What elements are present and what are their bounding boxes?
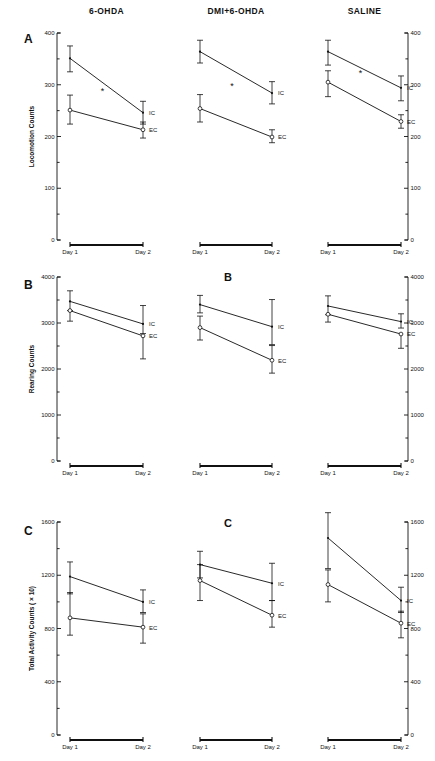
y-tick-label-right: 0: [411, 237, 415, 243]
data-point-IC: [69, 575, 71, 577]
y-tick-label: 0: [51, 458, 55, 464]
data-point-IC: [400, 599, 402, 601]
series-label-IC: IC: [149, 599, 156, 605]
x-tick-label-day2: Day 2: [393, 744, 409, 750]
series-label-EC: EC: [407, 621, 416, 627]
series-line-IC: [200, 52, 272, 93]
x-tick-label-day1: Day 1: [320, 470, 336, 476]
y-tick-label: 100: [44, 185, 55, 191]
data-point-EC: [68, 108, 72, 112]
series-line-IC: [328, 52, 401, 88]
series-label-EC: EC: [278, 134, 287, 140]
x-tick-label-day2: Day 2: [393, 249, 409, 255]
data-point-IC: [271, 92, 273, 94]
series-label-EC: EC: [149, 625, 158, 631]
x-tick-label-day1: Day 1: [62, 249, 78, 255]
series-line-EC: [70, 618, 143, 627]
y-tick-label-right: 1600: [411, 519, 425, 525]
x-tick-label-day1: Day 1: [320, 744, 336, 750]
stray-label-b: B: [224, 271, 232, 283]
x-tick-label-day1: Day 1: [62, 470, 78, 476]
data-point-EC: [399, 332, 403, 336]
series-line-EC: [328, 314, 401, 334]
data-point-EC: [270, 135, 274, 139]
series-line-IC: [70, 58, 143, 112]
y-tick-label: 400: [44, 30, 55, 36]
y-axis-title-row-2: Rearing Counts: [28, 344, 36, 393]
column-title-1: 6-OHDA: [89, 6, 124, 16]
series-line-IC: [200, 565, 272, 584]
x-tick-label-day1: Day 1: [62, 744, 78, 750]
x-tick-label-day2: Day 2: [264, 470, 280, 476]
x-tick-label-day1: Day 1: [320, 249, 336, 255]
series-line-IC: [70, 577, 143, 602]
y-tick-label-right: 1200: [411, 572, 425, 578]
data-point-EC: [141, 334, 145, 338]
x-tick-label-day2: Day 2: [135, 470, 151, 476]
series-label-IC: IC: [278, 324, 285, 330]
data-point-IC: [142, 323, 144, 325]
series-line-EC: [200, 328, 272, 361]
column-title-2: DMI+6-OHDA: [207, 6, 264, 16]
data-point-EC: [141, 625, 145, 629]
y-tick-label: 1200: [41, 572, 55, 578]
series-label-IC: IC: [407, 319, 414, 325]
series-label-IC: IC: [278, 90, 285, 96]
series-line-EC: [200, 581, 272, 616]
series-label-EC: EC: [278, 358, 287, 364]
series-label-IC: IC: [278, 581, 285, 587]
y-tick-label-right: 800: [411, 626, 422, 632]
x-tick-label-day2: Day 2: [135, 744, 151, 750]
y-tick-label-right: 200: [411, 134, 422, 140]
x-tick-label-day1: Day 1: [192, 470, 208, 476]
y-tick-label-right: 1000: [411, 412, 425, 418]
panel-letter-A: A: [24, 32, 33, 46]
data-point-EC: [68, 616, 72, 620]
data-point-IC: [142, 601, 144, 603]
series-label-IC: IC: [149, 110, 156, 116]
y-tick-label-right: 0: [411, 458, 415, 464]
data-point-IC: [327, 305, 329, 307]
y-tick-label: 0: [51, 237, 55, 243]
y-tick-label: 400: [44, 679, 55, 685]
panel-letter-C: C: [24, 524, 33, 538]
data-point-IC: [400, 321, 402, 323]
series-label-IC: IC: [149, 321, 156, 327]
y-axis-title-row-1: Locomotion Counts: [28, 105, 35, 167]
data-point-EC: [198, 107, 202, 111]
series-label-EC: EC: [407, 331, 416, 337]
data-point-EC: [399, 120, 403, 124]
y-tick-label: 1000: [41, 412, 55, 418]
x-tick-label-day1: Day 1: [192, 249, 208, 255]
series-line-EC: [200, 109, 272, 137]
data-point-EC: [270, 358, 274, 362]
y-tick-label: 300: [44, 82, 55, 88]
panel-letter-B: B: [24, 278, 33, 292]
x-tick-label-day2: Day 2: [264, 744, 280, 750]
data-point-IC: [69, 57, 71, 59]
y-tick-label-right: 4000: [411, 274, 425, 280]
y-tick-label-right: 0: [411, 732, 415, 738]
series-line-IC: [328, 306, 401, 322]
y-tick-label: 0: [51, 732, 55, 738]
significance-asterisk: *: [359, 68, 363, 78]
series-label-EC: EC: [149, 333, 158, 339]
significance-asterisk: *: [230, 81, 234, 91]
stray-label-c: C: [224, 517, 232, 529]
data-point-IC: [271, 326, 273, 328]
figure-canvas: 6-OHDADMI+6-OHDASALINEBCA0100200300400Lo…: [0, 0, 435, 761]
x-tick-label-day2: Day 2: [393, 470, 409, 476]
series-line-EC: [70, 110, 143, 130]
series-line-EC: [70, 311, 143, 336]
x-tick-label-day2: Day 2: [135, 249, 151, 255]
series-label-EC: EC: [278, 613, 287, 619]
data-point-EC: [399, 621, 403, 625]
series-line-IC: [328, 538, 401, 601]
y-axis-title-row-3: Total Activity Counts ( × 10): [28, 586, 36, 671]
data-point-EC: [198, 326, 202, 330]
x-tick-label-day1: Day 1: [192, 744, 208, 750]
y-tick-label: 800: [44, 626, 55, 632]
y-tick-label-right: 2000: [411, 366, 425, 372]
y-tick-label: 200: [44, 134, 55, 140]
data-point-EC: [326, 583, 330, 587]
